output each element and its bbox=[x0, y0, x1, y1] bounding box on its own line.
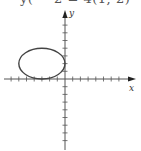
y-axis-label: y bbox=[68, 8, 75, 18]
coordinate-graph: x y bbox=[0, 0, 141, 151]
y-axis-arrow bbox=[63, 10, 68, 18]
ellipse-curve bbox=[19, 48, 65, 79]
x-axis-arrow bbox=[128, 77, 136, 82]
x-axis-label: x bbox=[129, 83, 134, 93]
